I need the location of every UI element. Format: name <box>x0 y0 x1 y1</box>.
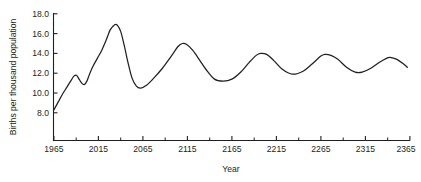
y-tick-label: 12.0 <box>32 68 49 78</box>
x-tick-label: 2365 <box>396 144 415 154</box>
x-tick-label: 2115 <box>178 144 197 154</box>
line-chart-svg: 18.0 16.0 14.0 12.0 10.0 8.0 <box>0 0 421 182</box>
y-tick-label: 8.0 <box>37 108 49 118</box>
x-tick-label: 2015 <box>89 144 108 154</box>
y-axis-tick-labels: 18.0 16.0 14.0 12.0 10.0 8.0 <box>32 9 49 118</box>
x-tick-label: 2265 <box>311 144 330 154</box>
x-tick-label: 2215 <box>267 144 286 154</box>
x-axis-tick-labels: 1965 2015 2065 2115 2165 2215 2265 2315 … <box>44 144 415 154</box>
x-tick-label: 1965 <box>44 144 63 154</box>
x-tick-label: 2315 <box>356 144 375 154</box>
y-tick-label: 10.0 <box>32 88 49 98</box>
y-axis-title: Births per thousand population <box>8 18 18 135</box>
y-tick-label: 16.0 <box>32 29 49 39</box>
y-axis-ticks <box>54 14 58 113</box>
chart-figure: 18.0 16.0 14.0 12.0 10.0 8.0 <box>0 0 421 182</box>
y-tick-label: 18.0 <box>32 9 49 19</box>
x-tick-label: 2165 <box>222 144 241 154</box>
y-tick-label: 14.0 <box>32 48 49 58</box>
x-tick-label: 2065 <box>133 144 152 154</box>
x-axis-title: Year <box>222 164 240 174</box>
data-series-line <box>54 24 407 110</box>
x-axis-major-ticks <box>54 136 410 141</box>
